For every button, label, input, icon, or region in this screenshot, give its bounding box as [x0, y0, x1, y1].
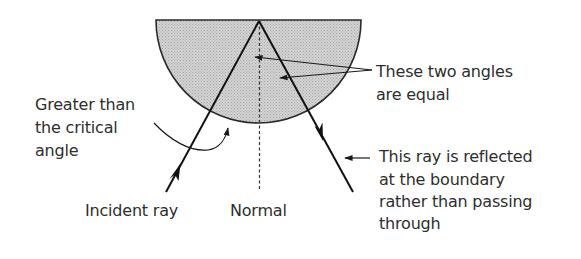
equal-angles-label-line-1: These two angles — [375, 62, 513, 81]
reflected-ray-label-line-2: at the boundary — [379, 170, 505, 189]
reflected-ray-label-line-3: rather than passing — [379, 192, 532, 211]
equal-angles-label-line-2: are equal — [376, 85, 450, 104]
incident-ray-arrowhead-icon — [170, 164, 181, 182]
critical-angle-label-line-1: Greater than — [35, 95, 135, 114]
total-internal-reflection-diagram: Greater than the critical angle These tw… — [0, 0, 581, 259]
normal-label: Normal — [230, 201, 287, 220]
reflected-ray-label-line-1: This ray is reflected — [378, 147, 532, 166]
critical-angle-label-line-3: angle — [35, 141, 78, 160]
semicircle-block — [156, 20, 361, 123]
reflected-ray-label-line-4: through — [379, 214, 440, 233]
critical-angle-label-line-2: the critical — [35, 118, 118, 137]
incident-ray-label: Incident ray — [85, 201, 178, 220]
